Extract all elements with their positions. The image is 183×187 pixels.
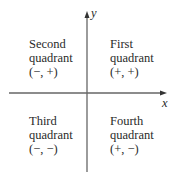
quadrant-word: quadrant (29, 128, 73, 142)
quadrant-name: First (110, 37, 154, 51)
x-axis-arrow-icon (160, 91, 167, 96)
quadrant-name: Third (29, 114, 73, 128)
quadrant-signs: (+, +) (110, 65, 154, 79)
second-quadrant-label: Second quadrant (−, +) (29, 37, 73, 79)
quadrant-word: quadrant (110, 128, 154, 142)
fourth-quadrant-label: Fourth quadrant (+, −) (110, 114, 154, 156)
quadrant-signs: (−, +) (29, 65, 73, 79)
quadrant-signs: (−, −) (29, 142, 73, 156)
third-quadrant-label: Third quadrant (−, −) (29, 114, 73, 156)
x-axis-label: x (162, 96, 168, 111)
quadrant-name: Second (29, 37, 73, 51)
y-axis-arrow-icon (85, 11, 90, 18)
coordinate-axes (0, 0, 183, 187)
quadrant-signs: (+, −) (110, 142, 154, 156)
y-axis-label: y (91, 6, 97, 21)
quadrant-name: Fourth (110, 114, 154, 128)
quadrant-word: quadrant (29, 51, 73, 65)
quadrant-word: quadrant (110, 51, 154, 65)
first-quadrant-label: First quadrant (+, +) (110, 37, 154, 79)
